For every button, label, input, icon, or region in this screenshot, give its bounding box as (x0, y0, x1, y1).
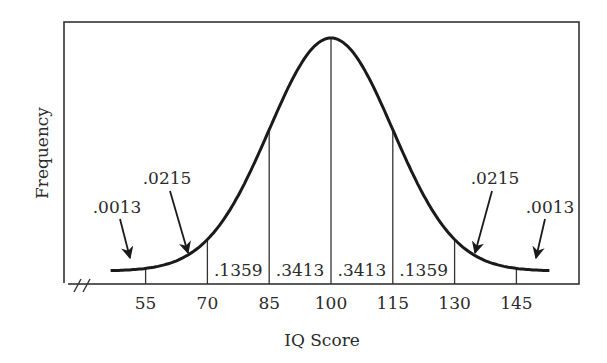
x-tick-145: 145 (500, 293, 532, 313)
arrow-icon (120, 219, 130, 258)
area-label-3: .3413 (276, 260, 325, 280)
arrow-icon (536, 219, 545, 258)
area-label-5: .1359 (399, 260, 448, 280)
y-axis-title: Frequency (32, 107, 52, 199)
x-tick-115: 115 (377, 293, 409, 313)
axis-break-gap (60, 283, 68, 286)
plot-frame (64, 22, 579, 284)
axis-break-icon (74, 279, 90, 292)
arrow-icon (475, 191, 492, 253)
x-tick-55: 55 (135, 293, 157, 313)
area-label-2: .1359 (214, 260, 263, 280)
x-tick-labels: 557085100115130145 (135, 293, 533, 313)
normal-curve (111, 38, 550, 271)
x-tick-85: 85 (258, 293, 280, 313)
x-tick-70: 70 (197, 293, 219, 313)
x-axis-title: IQ Score (284, 330, 360, 350)
annotation-arrows (120, 191, 545, 258)
area-label-6: .0215 (471, 168, 520, 188)
x-tick-100: 100 (315, 293, 347, 313)
area-label-4: .3413 (338, 260, 387, 280)
arrow-icon (170, 191, 188, 253)
area-label-7: .0013 (526, 197, 575, 217)
area-label-0: .0013 (93, 197, 142, 217)
area-label-1: .0215 (143, 168, 192, 188)
normal-distribution-chart: 557085100115130145 .0013.0215.1359.3413.… (0, 0, 607, 363)
x-tick-130: 130 (438, 293, 470, 313)
